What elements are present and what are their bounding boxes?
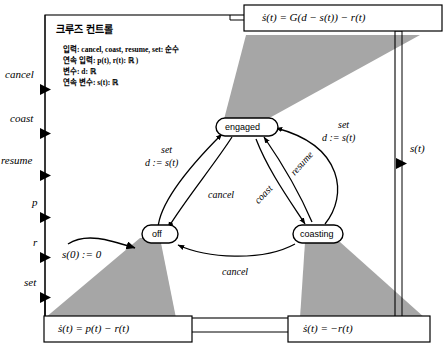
- transition-label-set-coasting-engaged-action: d := s(t): [322, 132, 355, 143]
- input-port-label-cancel: cancel: [5, 68, 34, 80]
- transition-coasting-off: [178, 244, 295, 256]
- input-port-label-set: set: [24, 276, 36, 288]
- state-label-off: off: [152, 229, 162, 239]
- diagram-title: 크루즈 컨트롤: [56, 21, 113, 36]
- spec-line-continuous-inputs: 연속 입력: p(t), r(t): ℝ ): [63, 54, 138, 65]
- refinement-shade-coasting: [300, 242, 425, 318]
- transition-label-set-off-engaged-guard: set: [161, 144, 172, 155]
- input-port-label-p: p: [32, 196, 38, 208]
- state-label-coasting: coasting: [300, 229, 334, 239]
- input-port-label-resume: resume: [1, 154, 32, 166]
- input-port-label-coast: coast: [10, 112, 33, 124]
- transition-label-set-coasting-engaged-guard: set: [338, 119, 349, 130]
- transition-label-cancel-engaged-off: cancel: [208, 189, 234, 200]
- spec-line-continuous-variables: 연속 변수: s(t): ℝ: [63, 76, 118, 87]
- transition-label-cancel-coasting-off: cancel: [222, 266, 248, 277]
- output-port-label-s: s(t): [410, 142, 425, 154]
- cruise-control-diagram: 크루즈 컨트롤 입력: cancel, coast, resume, set: …: [0, 0, 445, 352]
- refinement-shade-engaged: [222, 35, 420, 127]
- refinement-equation-engaged: ṡ(t) = G(d − s(t)) − r(t): [262, 11, 366, 23]
- spec-line-variables: 변수: d: ℝ: [63, 65, 96, 76]
- transition-engaged-off: [168, 137, 232, 228]
- input-port-label-r: r: [33, 236, 37, 248]
- connector-engaged-box: [230, 15, 245, 20]
- initial-transition-arrow: [68, 238, 135, 248]
- transition-label-set-off-engaged-action: d := s(t): [145, 157, 178, 168]
- transition-engaged-coasting: [256, 139, 305, 224]
- spec-line-inputs: 입력: cancel, coast, resume, set: 순수: [63, 43, 179, 54]
- connector-right-rail: [395, 31, 402, 318]
- refinement-equation-off: ṡ(t) = p(t) − r(t): [58, 322, 129, 334]
- state-label-engaged: engaged: [225, 122, 260, 132]
- refinement-equation-coasting: ṡ(t) = −r(t): [303, 322, 353, 334]
- initial-transition-action: s(0) := 0: [62, 248, 101, 260]
